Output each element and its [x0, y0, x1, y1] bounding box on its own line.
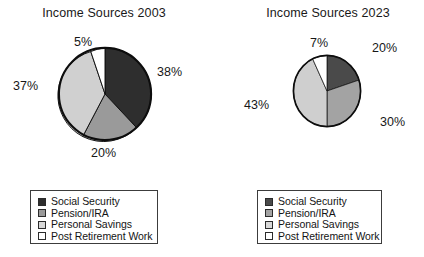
legend-swatch-social-security — [38, 198, 46, 206]
pie-label-social-security: 38% — [157, 65, 182, 79]
chart-panel-2023: Income Sources 2023 7% 20% 43% 30% Socia… — [212, 0, 424, 257]
legend-2023: Social Security Pension/IRA Personal Sav… — [257, 190, 382, 244]
legend-swatch-pension-ira — [265, 209, 273, 217]
legend-item-pension-ira: Pension/IRA — [38, 208, 149, 219]
chart-title-2023: Income Sources 2023 — [222, 6, 424, 20]
legend-2003: Social Security Pension/IRA Personal Sav… — [30, 190, 158, 244]
pie-chart-figure: Income Sources 2003 5% 38% 37% 20% Socia… — [0, 0, 424, 257]
legend-swatch-pension-ira — [38, 209, 46, 217]
legend-item-social-security: Social Security — [265, 196, 373, 207]
legend-label-pension-ira: Pension/IRA — [51, 208, 109, 219]
legend-item-post-retirement-work: Post Retirement Work — [38, 231, 149, 242]
legend-item-pension-ira: Pension/IRA — [265, 208, 373, 219]
legend-swatch-personal-savings — [265, 221, 273, 229]
legend-label-pension-ira: Pension/IRA — [278, 208, 336, 219]
pie-label-post-retirement-work: 7% — [310, 36, 328, 50]
pie-label-social-security: 20% — [372, 41, 397, 55]
legend-swatch-social-security — [265, 198, 273, 206]
chart-title-2003: Income Sources 2003 — [0, 6, 210, 20]
chart-panel-2003: Income Sources 2003 5% 38% 37% 20% Socia… — [0, 0, 212, 257]
pie-svg-2023 — [292, 54, 362, 128]
pie-chart-2003 — [57, 46, 153, 142]
legend-item-post-retirement-work: Post Retirement Work — [265, 231, 373, 242]
pie-label-pension-ira: 30% — [380, 115, 405, 129]
legend-label-personal-savings: Personal Savings — [51, 219, 132, 230]
pie-label-pension-ira: 20% — [91, 146, 116, 160]
legend-label-social-security: Social Security — [278, 196, 347, 207]
legend-swatch-post-retirement-work — [265, 232, 273, 240]
legend-label-personal-savings: Personal Savings — [278, 219, 359, 230]
pie-chart-2023 — [292, 54, 362, 128]
legend-label-social-security: Social Security — [51, 196, 120, 207]
legend-swatch-personal-savings — [38, 221, 46, 229]
legend-item-personal-savings: Personal Savings — [265, 219, 373, 230]
legend-item-social-security: Social Security — [38, 196, 149, 207]
legend-swatch-post-retirement-work — [38, 232, 46, 240]
legend-label-post-retirement-work: Post Retirement Work — [278, 231, 380, 242]
legend-item-personal-savings: Personal Savings — [38, 219, 149, 230]
pie-label-personal-savings: 43% — [244, 98, 269, 112]
pie-label-post-retirement-work: 5% — [74, 35, 92, 49]
legend-label-post-retirement-work: Post Retirement Work — [51, 231, 153, 242]
pie-svg-2003 — [57, 46, 153, 142]
pie-label-personal-savings: 37% — [13, 79, 38, 93]
